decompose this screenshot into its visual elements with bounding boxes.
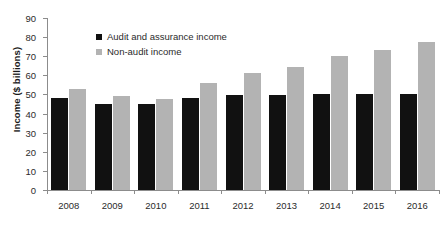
bar-audit: [269, 95, 286, 190]
bar-audit: [226, 95, 243, 190]
y-tick-label: 60: [25, 70, 36, 81]
x-tick-mark: [221, 190, 222, 194]
y-tick-label: 70: [25, 51, 36, 62]
bar-audit: [400, 94, 417, 191]
x-tick-mark: [308, 190, 309, 194]
y-tick-mark: 10: [43, 171, 47, 172]
y-tick-label: 30: [25, 127, 36, 138]
legend-label-nonaudit: Non-audit income: [107, 46, 181, 57]
bar-chart: Income ($ billions) 0102030405060708090 …: [0, 0, 446, 230]
y-tick-mark: 90: [43, 18, 47, 19]
bar-nonaudit: [331, 56, 348, 190]
bar-audit: [356, 94, 373, 190]
bar-nonaudit: [287, 67, 304, 190]
bar-nonaudit: [156, 99, 173, 190]
bar-audit: [95, 104, 112, 190]
bar-nonaudit: [374, 50, 391, 190]
bar-nonaudit: [69, 89, 86, 190]
y-tick-mark: 20: [43, 152, 47, 153]
x-tick-label: 2013: [276, 200, 297, 211]
bar-audit: [138, 104, 155, 190]
x-tick-mark: [47, 190, 48, 194]
chart-legend: Audit and assurance income Non-audit inc…: [96, 31, 227, 57]
y-tick-label: 20: [25, 146, 36, 157]
y-tick-label: 80: [25, 32, 36, 43]
x-tick-mark: [439, 190, 440, 194]
legend-swatch-audit-icon: [96, 34, 102, 40]
x-tick-mark: [352, 190, 353, 194]
bar-audit: [182, 98, 199, 190]
y-tick-label: 0: [31, 185, 36, 196]
y-tick-mark: 40: [43, 114, 47, 115]
x-tick-label: 2015: [363, 200, 384, 211]
y-tick-label: 40: [25, 108, 36, 119]
y-tick-label: 50: [25, 89, 36, 100]
bar-nonaudit: [244, 73, 261, 190]
x-tick-label: 2009: [102, 200, 123, 211]
y-tick-label: 90: [25, 13, 36, 24]
x-tick-label: 2010: [145, 200, 166, 211]
bar-nonaudit: [113, 96, 130, 190]
y-tick-mark: 30: [43, 133, 47, 134]
bar-nonaudit: [200, 83, 217, 190]
x-tick-mark: [395, 190, 396, 194]
x-tick-label: 2011: [189, 200, 209, 211]
x-tick-mark: [134, 190, 135, 194]
y-axis-line: [47, 18, 48, 190]
legend-item-audit: Audit and assurance income: [96, 31, 227, 42]
x-tick-mark: [178, 190, 179, 194]
legend-label-audit: Audit and assurance income: [107, 31, 227, 42]
x-axis-line: [47, 190, 439, 191]
y-tick-mark: 80: [43, 37, 47, 38]
legend-swatch-nonaudit-icon: [96, 49, 102, 55]
y-axis-title: Income ($ billions): [11, 25, 22, 155]
x-tick-label: 2016: [407, 200, 428, 211]
bar-audit: [313, 94, 330, 191]
y-tick-mark: 60: [43, 75, 47, 76]
y-tick-mark: 50: [43, 94, 47, 95]
x-tick-label: 2014: [320, 200, 341, 211]
bar-audit: [51, 98, 68, 190]
x-tick-mark: [265, 190, 266, 194]
x-tick-label: 2008: [58, 200, 79, 211]
legend-item-nonaudit: Non-audit income: [96, 46, 227, 57]
y-tick-mark: 70: [43, 56, 47, 57]
x-tick-mark: [91, 190, 92, 194]
x-tick-label: 2012: [232, 200, 253, 211]
y-tick-label: 10: [25, 165, 36, 176]
bar-nonaudit: [418, 42, 435, 190]
